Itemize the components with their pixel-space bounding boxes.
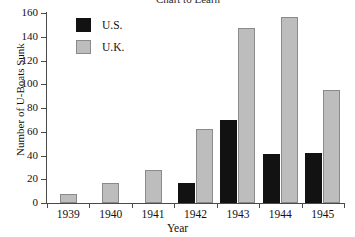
y-axis-tick bbox=[41, 108, 47, 109]
y-axis-tick-label: 40 bbox=[8, 150, 38, 161]
y-axis-tick bbox=[41, 156, 47, 157]
x-axis-tick-label: 1943 bbox=[215, 208, 261, 221]
bar-us-1942 bbox=[178, 183, 195, 203]
x-axis-tick-label: 1940 bbox=[88, 208, 134, 221]
bar-uk-1944 bbox=[281, 17, 298, 203]
bar-us-1944 bbox=[263, 154, 280, 203]
bar-uk-1940 bbox=[102, 183, 119, 203]
y-axis-tick-label: 120 bbox=[8, 55, 38, 66]
bar-us-1945 bbox=[305, 153, 322, 203]
x-axis-tick-label: 1941 bbox=[130, 208, 176, 221]
x-axis-title: Year bbox=[0, 222, 355, 235]
y-axis-tick-label: 60 bbox=[8, 126, 38, 137]
chart-title: Chart to Learn bbox=[118, 0, 258, 3]
y-axis-tick-label: 140 bbox=[8, 31, 38, 42]
y-axis-tick bbox=[41, 37, 47, 38]
legend-label-uk: U.K. bbox=[102, 40, 124, 54]
y-axis-tick bbox=[41, 61, 47, 62]
bar-uk-1942 bbox=[196, 129, 213, 203]
y-axis-tick bbox=[41, 179, 47, 180]
legend-label-us: U.S. bbox=[102, 18, 122, 32]
y-axis-tick-label: 160 bbox=[8, 7, 38, 18]
x-axis-tick-label: 1942 bbox=[173, 208, 219, 221]
y-axis-tick-label: 20 bbox=[8, 173, 38, 184]
y-axis-tick bbox=[41, 132, 47, 133]
y-axis-tick bbox=[41, 84, 47, 85]
y-axis-tick bbox=[41, 13, 47, 14]
y-axis-tick-label: 80 bbox=[8, 102, 38, 113]
black-square-swatch bbox=[76, 18, 91, 32]
bar-uk-1943 bbox=[238, 28, 255, 203]
y-axis-tick-label: 0 bbox=[8, 197, 38, 208]
bar-chart: Chart to Learn Number of U-Boats Sunk 02… bbox=[0, 0, 355, 237]
x-axis-tick-label: 1944 bbox=[257, 208, 303, 221]
x-axis-line bbox=[46, 203, 345, 204]
gray-square-swatch bbox=[76, 40, 91, 54]
bar-us-1943 bbox=[220, 120, 237, 203]
bar-uk-1941 bbox=[145, 170, 162, 203]
bar-uk-1945 bbox=[323, 90, 340, 203]
x-axis-tick-label: 1939 bbox=[45, 208, 91, 221]
x-axis-tick-label: 1945 bbox=[300, 208, 346, 221]
y-axis-tick-label: 100 bbox=[8, 78, 38, 89]
bar-uk-1939 bbox=[60, 194, 77, 204]
